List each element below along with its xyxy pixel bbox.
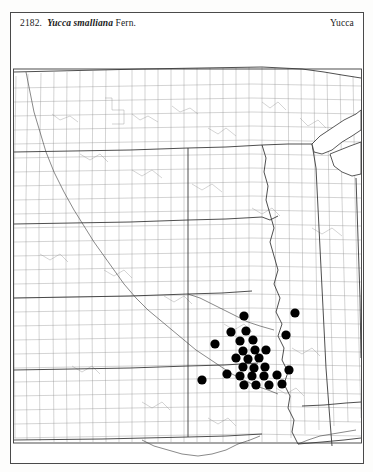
occurrence-dot	[277, 379, 286, 388]
occurrence-dot	[231, 353, 240, 362]
occurrence-dot	[264, 380, 273, 389]
occurrence-dot	[239, 311, 248, 320]
occurrence-dot	[238, 346, 247, 355]
occurrence-dot	[241, 326, 250, 335]
occurrence-dot	[197, 375, 206, 384]
distribution-map-svg	[12, 58, 364, 464]
occurrence-dot	[235, 336, 244, 345]
great-lakes	[312, 110, 361, 176]
occurrence-dot	[254, 353, 263, 362]
occurrence-dot	[226, 327, 235, 336]
species-name: Yucca smalliana	[47, 18, 113, 28]
plate-header: 2182. Yucca smalliana Fern. Yucca	[11, 13, 363, 41]
plate-frame: 2182. Yucca smalliana Fern. Yucca	[10, 12, 364, 464]
occurrence-dot	[250, 345, 259, 354]
genus-label: Yucca	[330, 18, 354, 28]
species-authority: Fern.	[116, 18, 137, 28]
rivers	[26, 72, 356, 456]
occurrence-dot	[210, 339, 219, 348]
occurrence-dot	[238, 362, 247, 371]
occurrence-dot	[281, 330, 290, 339]
occurrence-dot	[249, 363, 258, 372]
species-caption: 2182. Yucca smalliana Fern.	[20, 18, 136, 28]
atlas-page: 2182. Yucca smalliana Fern. Yucca	[0, 0, 373, 472]
occurrence-dot	[284, 365, 293, 374]
occurrence-dot	[247, 371, 256, 380]
occurrence-dot	[235, 371, 244, 380]
occurrence-dot	[222, 369, 231, 378]
occurrence-dot	[290, 308, 299, 317]
entry-number: 2182.	[20, 18, 42, 28]
occurrence-dot	[259, 371, 268, 380]
occurrence-dot	[243, 354, 252, 363]
occurrence-dot	[272, 370, 281, 379]
occurrence-dot	[248, 335, 257, 344]
county-boundaries	[14, 67, 361, 442]
map-container	[12, 58, 364, 464]
occurrence-dot-layer	[197, 308, 299, 389]
occurrence-dot	[261, 345, 270, 354]
occurrence-dot	[239, 380, 248, 389]
occurrence-dot	[251, 380, 260, 389]
occurrence-dot	[260, 362, 269, 371]
